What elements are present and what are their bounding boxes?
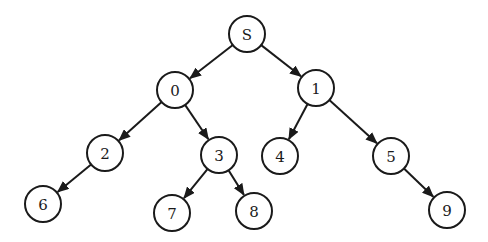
edge-1-to-4 [289,104,308,139]
node-label: S [242,26,252,44]
nodes-layer: S0123456789 [25,16,465,231]
node-label: 0 [170,82,180,100]
edges-layer [58,45,434,198]
node-label: 9 [442,202,452,220]
node-5: 5 [373,138,409,174]
tree-diagram: S0123456789 [0,0,488,242]
edge-S-to-0 [190,45,233,78]
edge-1-to-5 [329,100,377,143]
edge-0-to-2 [119,102,161,140]
edge-3-to-7 [184,169,208,198]
node-3: 3 [201,137,237,173]
edge-5-to-9 [404,168,433,196]
node-8: 8 [236,193,272,229]
node-2: 2 [87,135,123,171]
node-label: 1 [311,80,321,98]
node-6: 6 [25,186,61,222]
edge-3-to-8 [229,170,244,195]
node-label: 4 [275,148,285,166]
node-label: 7 [167,205,177,223]
node-label: 6 [38,196,48,214]
node-4: 4 [262,138,298,174]
node-label: 2 [100,145,110,163]
edge-2-to-6 [58,164,91,191]
node-1: 1 [298,70,334,106]
node-0: 0 [157,72,193,108]
node-9: 9 [429,192,465,228]
node-S: S [229,16,265,52]
tree-canvas: S0123456789 [0,0,488,242]
node-label: 5 [386,148,396,166]
node-label: 3 [214,147,224,165]
edge-0-to-3 [185,105,208,139]
node-label: 8 [249,203,259,221]
node-7: 7 [154,195,190,231]
edge-S-to-1 [261,45,301,76]
